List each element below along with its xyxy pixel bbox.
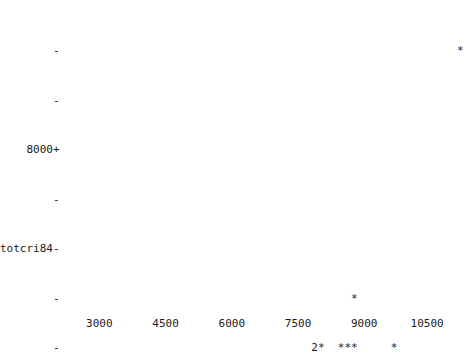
plot-row: - [0, 93, 469, 110]
row-cells: 2* *** * [93, 341, 398, 354]
plot-row: 8000+ [0, 142, 469, 159]
row-gutter: - [0, 94, 93, 107]
row-gutter: totcri84- [0, 242, 93, 255]
plot-row: - [0, 192, 469, 209]
row-cells: * [93, 44, 464, 57]
clipped-caption-strip [0, 0, 469, 8]
row-gutter: - [0, 292, 93, 305]
plot-row: - 2* *** * [0, 340, 469, 354]
row-gutter: - [0, 44, 93, 57]
row-gutter: 8000+ [0, 143, 93, 156]
plot-character-canvas: - * - 8000+ - totcri84- - * [0, 10, 469, 354]
plot-row: - * [0, 291, 469, 308]
x-axis-tick-labels: 3000 4500 6000 7500 9000 10500 [0, 317, 469, 331]
row-gutter: - [0, 341, 93, 354]
character-scatterplot: - * - 8000+ - totcri84- - * [0, 0, 469, 354]
row-cells: * [93, 292, 358, 305]
row-gutter: - [0, 193, 93, 206]
plot-row: - * [0, 43, 469, 60]
plot-row-y-axis-title: totcri84- [0, 241, 469, 258]
